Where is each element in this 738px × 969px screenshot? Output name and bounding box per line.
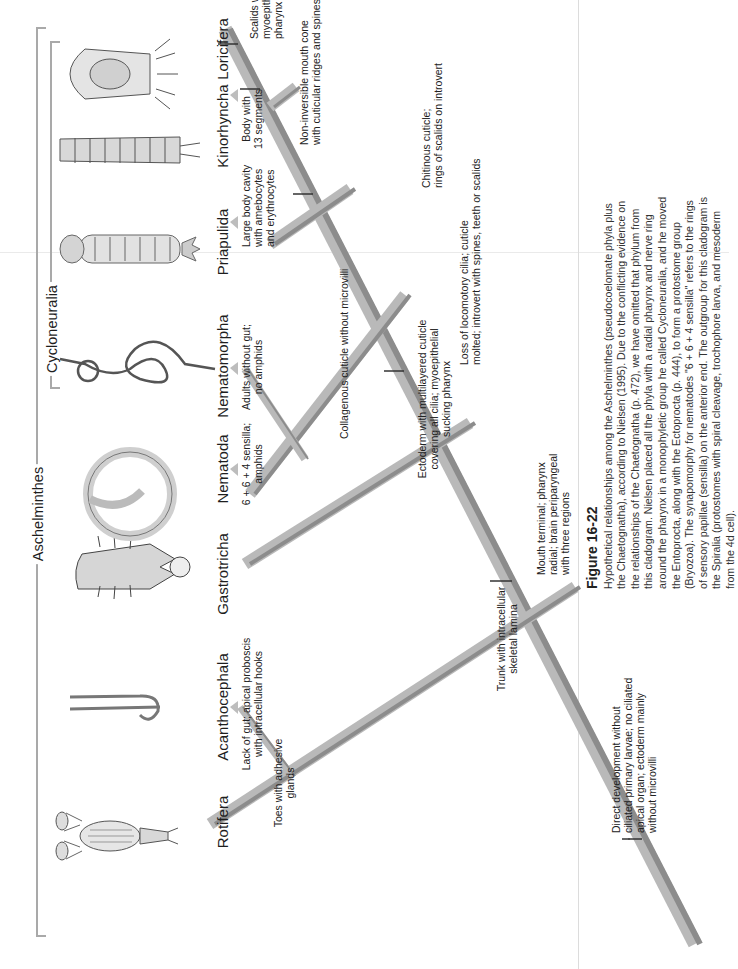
character-loricifera: Scalids with muscles;myoepithelial sucki… [248, 0, 284, 39]
taxon-rotifera: Rotifera [214, 796, 231, 849]
character-nematomorpha: Adults without gut;no amphids [240, 324, 264, 410]
character-kinorhyncha: Body with13 segments [240, 89, 264, 149]
character-acanthocephala: Lack of gut; apical probosciswith intrac… [240, 638, 264, 771]
taxon-gastrotricha: Gastrotricha [214, 533, 231, 615]
taxon-nematoda: Nematoda [214, 434, 231, 503]
character-collagenous: Collagenous cuticle without microvilli [338, 269, 350, 439]
character-nematoda: 6 + 6 + 4 sensilla;amphids [240, 423, 264, 505]
branch-trunk-lamina [210, 587, 575, 824]
character-mouth-cone: Non-inversible mouth conewith cuticular … [298, 0, 322, 145]
branch-kinorhyncha [270, 87, 296, 107]
character-root: Direct development withoutciliated prima… [610, 678, 658, 833]
taxon-loricifera: Loricifera [214, 18, 231, 80]
character-rotifera: Toes with adhesiveglands [272, 739, 296, 828]
taxon-kinorhyncha: Kinorhyncha [214, 84, 231, 167]
figure-number: Figure 16-22 [586, 194, 600, 589]
character-chitinous: Chitinous cuticle;rings of scalids on in… [420, 63, 444, 188]
character-priapulida: Large body cavitywith amebocytes and ery… [240, 165, 276, 247]
figure-caption-block: Figure 16-22 Hypothetical relationships … [586, 194, 738, 589]
character-trunk-lamina: Trunk with intracellularskeletal lamina [495, 587, 519, 692]
character-loss-cilia: Loss of locomotory cilia; cuticlemolted;… [458, 158, 482, 365]
taxon-nematomorpha: Nematomorpha [214, 314, 231, 417]
branch-collagenous [250, 295, 405, 494]
taxon-priapulida: Priapulida [214, 209, 231, 276]
character-mouth-terminal: Mouth terminal; pharynxradial; brain per… [535, 454, 571, 575]
taxon-acanthocephala: Acanthocephala [214, 653, 231, 761]
character-ectoderm-cuticle: Ectoderm with multilayered cuticlecoveri… [416, 320, 452, 479]
figure-caption-text: Hypothetical relationships among the Asc… [602, 194, 738, 589]
